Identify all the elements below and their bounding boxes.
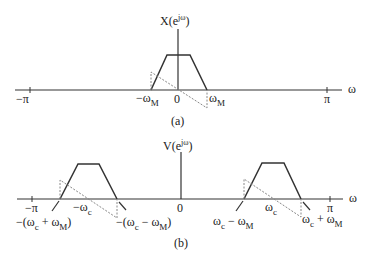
a-label-omega-m: ωM [209,91,225,108]
b-arrow-right-inner [236,201,243,211]
b-arrow-left-inner [119,202,126,210]
panel-b: V(ejω) ω −π π 0 −ωc ωc −(ωc + ωM) −(ωc −… [16,138,357,250]
a-label-zero: 0 [174,92,180,106]
b-xlabel-omega: ω [349,191,357,205]
b-label-neg-omega-c: −ωc [73,200,92,217]
b-label-neg-pi: −π [25,201,38,215]
b-label-left-outer: −(ωc + ωM) [16,215,71,232]
b-label-zero: 0 [177,201,183,215]
a-caption: (a) [171,114,184,128]
b-left-trapezoid [60,164,117,199]
a-trapezoid-spectrum [151,55,207,90]
a-label-neg-omega-m: −ωM [136,91,159,108]
spectrum-diagram: X(ejω) ω −π π 0 −ωM ωM (a) V(ejω) ω −π π… [0,0,368,259]
b-caption: (b) [174,236,188,250]
panel-a: X(ejω) ω −π π 0 −ωM ωM (a) [15,13,356,128]
a-label-neg-pi: −π [16,92,29,106]
b-right-trapezoid [244,163,301,199]
b-arrow-left-outer [52,201,59,211]
b-label-right-outer: ωc + ωM [302,212,343,229]
a-xlabel-omega: ω [348,82,356,96]
b-label-omega-c: ωc [265,200,277,217]
b-label-right-inner: ωc − ωM [213,214,254,231]
b-arrow-right-outer [303,202,310,210]
b-label-left-inner: −(ωc − ωM) [116,215,171,232]
a-label-pi: π [324,92,330,106]
a-ylabel: X(ejω) [160,13,190,28]
b-ylabel: V(ejω) [163,138,193,153]
